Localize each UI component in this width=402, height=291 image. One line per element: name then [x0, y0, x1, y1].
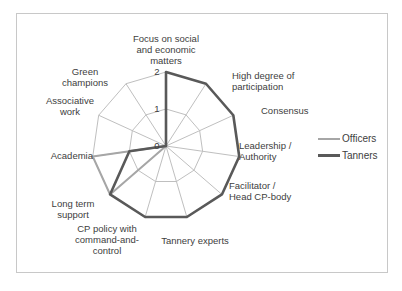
axis-label: Long termsupport	[52, 198, 95, 220]
legend-label-officers: Officers	[342, 133, 376, 144]
radial-tick-label: 2	[154, 66, 159, 77]
axis-label: Greenchampions	[62, 66, 108, 88]
legend-swatch-officers	[318, 138, 340, 140]
legend-swatch-tanners	[318, 154, 340, 157]
axis-label: Consensus	[261, 105, 309, 116]
chart-legend: Officers Tanners	[318, 130, 378, 164]
axis-label: CP policy withcommand-and-control	[75, 223, 139, 256]
legend-item-officers: Officers	[318, 130, 378, 147]
legend-item-tanners: Tanners	[318, 147, 378, 164]
axis-label: Tannery experts	[161, 235, 229, 246]
axis-label: Academia	[51, 150, 94, 161]
radial-tick-label: 1	[154, 103, 159, 114]
radial-tick-label: 0	[154, 140, 159, 151]
legend-label-tanners: Tanners	[342, 150, 378, 161]
axis-label: Leadership /Authority	[239, 140, 292, 162]
series-tanners	[110, 72, 239, 217]
axis-label: Associativework	[46, 95, 94, 117]
axis-label: High degree ofparticipation	[232, 70, 295, 92]
axis-label: Facilitator /Head CP-body	[229, 180, 292, 202]
axis-label: Focus on socialand economicmatters	[133, 33, 199, 66]
